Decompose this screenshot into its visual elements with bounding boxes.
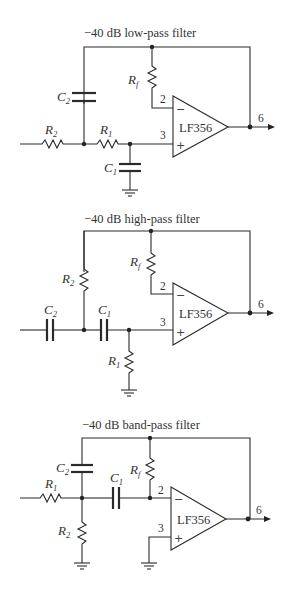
noninverting-sign: + [174,532,183,545]
ground-icon [141,563,157,569]
c1-label: C1 [98,302,111,319]
band-pass-title: −40 dB band-pass filter [82,418,201,432]
low-pass-title: −40 dB low-pass filter [84,26,197,40]
opamp-label: LF356 [179,121,212,135]
output-arrow-icon [264,516,271,522]
pin-3-label: 3 [160,129,166,141]
feedback-wire [82,438,250,519]
resistor-r1-icon [20,494,82,502]
inverting-sign: − [176,103,185,116]
resistor-r2-icon [80,231,88,330]
pin-3-label: 3 [160,316,166,328]
r1-label: R1 [99,122,112,139]
high-pass-filter-circuit: −40 dB high-pass filter Rf R2 C2 C [20,212,274,396]
opamp-label: LF356 [177,513,210,527]
ground-icon [122,190,138,196]
capacitor-c2-icon [20,319,84,341]
pin-6-label: 6 [258,298,264,310]
ground-icon [121,390,137,396]
pin-2-label: 2 [160,280,166,292]
resistor-r1-icon [125,330,133,390]
opamp-label: LF356 [179,307,212,321]
capacitor-c2-icon [72,93,96,144]
r2-label: R2 [57,523,71,540]
high-pass-title: −40 dB high-pass filter [84,212,201,226]
inverting-sign: − [174,493,183,506]
inverting-sign: − [176,289,185,302]
rf-label: Rf [129,254,142,271]
capacitor-c1-icon [119,144,141,190]
c1-label: C1 [104,160,117,177]
junction-dot [246,517,251,522]
junction-dot [248,311,253,316]
noninverting-ground-wire [149,537,171,563]
pin-6-label: 6 [256,504,262,516]
rf-label: Rf [129,462,142,479]
pin-6-label: 6 [258,112,264,124]
band-pass-filter-circuit: −40 dB band-pass filter C2 Rf R1 C1 [20,418,271,569]
c2-label: C2 [57,89,71,106]
feedback-wire [84,231,250,313]
r1-label: R1 [107,353,120,370]
rf-label: Rf [127,72,140,89]
capacitor-c2-icon [71,465,93,498]
resistor-r2-icon [20,140,84,148]
resistor-r2-icon [78,498,86,563]
pin-3-label: 3 [158,522,164,534]
noninverting-sign: + [176,139,185,152]
ground-icon [74,563,90,569]
output-arrow-icon [268,124,275,130]
c1-label: C1 [110,470,123,487]
c2-label: C2 [44,302,58,319]
junction-dot [248,125,253,130]
noninverting-sign: + [176,326,185,339]
feedback-wire [84,47,250,127]
c2-label: C2 [56,460,70,477]
r1-label: R1 [44,476,57,493]
pin-2-label: 2 [158,484,164,496]
pin-2-label: 2 [160,93,166,105]
low-pass-filter-circuit: −40 dB low-pass filter Rf C2 R2 R1 [20,26,275,196]
r2-label: R2 [61,271,75,288]
resistor-rf-icon [146,438,154,498]
r2-label: R2 [44,122,58,139]
output-arrow-icon [267,310,274,316]
